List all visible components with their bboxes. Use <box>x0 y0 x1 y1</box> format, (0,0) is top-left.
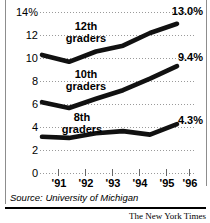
series-label-10th-graders: 10th graders <box>58 69 114 92</box>
series-label-12th-line1: 12th <box>75 20 98 32</box>
x-tick-label-92: '92 <box>73 177 99 189</box>
series-label-12th-graders: 12th graders <box>58 21 114 44</box>
x-axis-ticks <box>59 169 190 176</box>
chart-figure: 14% 12 10 8 6 4 2 0 <box>0 0 210 223</box>
end-label-10th-graders: 9.4% <box>178 51 203 63</box>
series-label-10th-line1: 10th <box>75 68 98 80</box>
x-tick-label-94: '94 <box>127 177 153 189</box>
end-label-8th-graders: 4.3% <box>178 114 203 126</box>
series-label-12th-line2: graders <box>66 32 106 44</box>
x-tick-label-96: '96 <box>177 177 203 189</box>
footer-divider <box>5 207 206 209</box>
series-label-8th-line2: graders <box>62 123 102 135</box>
x-tick-label-91: '91 <box>46 177 72 189</box>
series-label-8th-line1: 8th <box>74 111 91 123</box>
series-label-10th-line2: graders <box>66 80 106 92</box>
series-label-8th-graders: 8th graders <box>54 112 110 135</box>
source-note: Source: University of Michigan <box>10 192 138 203</box>
x-tick-label-93: '93 <box>100 177 126 189</box>
end-label-12th-graders: 13.0% <box>172 5 203 17</box>
publisher-credit: The New York Times <box>129 211 206 221</box>
